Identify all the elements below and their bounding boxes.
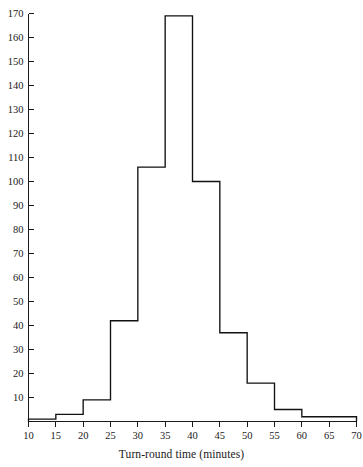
y-tick-label: 160 [8,32,24,43]
x-tick-label: 40 [187,430,198,441]
histogram-figure: 1020304050607080901001101201301401501601… [0,0,363,467]
x-axis-title: Turn-round time (minutes) [0,448,363,460]
x-tick-label: 15 [51,430,62,441]
y-tick-label: 120 [8,128,24,139]
histogram-bars [29,16,357,422]
y-tick-label: 170 [8,8,24,19]
y-tick-label: 80 [13,224,24,235]
x-tick-label: 60 [297,430,308,441]
x-tick-label: 45 [215,430,226,441]
x-tick-label: 65 [324,430,335,441]
x-tick-label: 25 [105,430,116,441]
x-tick-label: 20 [78,430,89,441]
y-tick-label: 140 [8,80,24,91]
x-tick-label: 70 [351,430,362,441]
y-tick-label: 30 [13,344,24,355]
y-tick-label: 60 [13,272,24,283]
y-tick-label: 100 [8,176,24,187]
x-tick-label: 50 [242,430,253,441]
y-tick-label: 150 [8,56,24,67]
x-tick-label: 35 [160,430,171,441]
y-tick-label: 50 [13,296,24,307]
x-tick-label: 10 [23,430,34,441]
y-tick-label: 40 [13,320,24,331]
y-tick-label: 10 [13,392,24,403]
y-tick-label: 110 [8,152,23,163]
y-tick-label: 90 [13,200,24,211]
y-tick-label: 20 [13,368,24,379]
x-tick-label: 55 [269,430,280,441]
histogram-plot-area: 1020304050607080901001101201301401501601… [0,0,363,467]
y-tick-label: 130 [8,104,24,115]
y-tick-label: 70 [13,248,24,259]
x-tick-label: 30 [133,430,144,441]
